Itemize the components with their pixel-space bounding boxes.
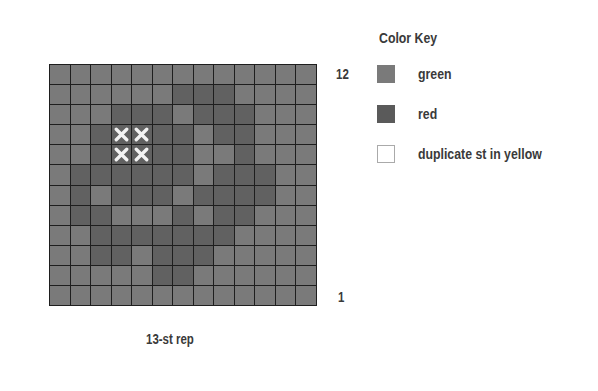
chart-cell — [112, 165, 132, 184]
chart-cell — [112, 226, 132, 245]
chart-cell — [296, 186, 316, 205]
chart-cell — [173, 65, 193, 84]
chart-cell — [194, 226, 214, 245]
chart-cell — [112, 186, 132, 205]
chart-cell — [194, 145, 214, 164]
chart-cell — [255, 105, 275, 124]
chart-cell — [276, 105, 296, 124]
chart-cell — [132, 145, 152, 164]
color-key-title: Color Key — [379, 29, 437, 46]
chart-cell — [255, 165, 275, 184]
chart-cell — [276, 85, 296, 104]
chart-cell — [153, 286, 173, 305]
green-swatch-icon — [377, 65, 395, 83]
chart-cell — [173, 145, 193, 164]
chart-cell — [194, 286, 214, 305]
chart-cell — [214, 246, 234, 265]
chart-cell — [173, 286, 193, 305]
chart-cell — [214, 165, 234, 184]
chart-cell — [173, 85, 193, 104]
chart-cell — [153, 246, 173, 265]
chart-cell — [132, 105, 152, 124]
chart-cell — [71, 125, 91, 144]
chart-cell — [214, 145, 234, 164]
chart-cell — [153, 165, 173, 184]
chart-cell — [255, 206, 275, 225]
duplicate-stitch-x-icon — [112, 145, 132, 164]
chart-cell — [214, 125, 234, 144]
chart-cell — [91, 246, 111, 265]
key-label-green: green — [418, 65, 452, 82]
chart-cell — [50, 125, 70, 144]
duplicate-stitch-swatch-icon — [377, 145, 395, 163]
chart-cell — [235, 266, 255, 285]
chart-cell — [255, 266, 275, 285]
chart-cell — [173, 246, 193, 265]
chart-cell — [235, 105, 255, 124]
chart-cell — [71, 266, 91, 285]
chart-cell — [71, 85, 91, 104]
row-label-top: 12 — [336, 66, 349, 82]
chart-cell — [132, 186, 152, 205]
chart-cell — [153, 266, 173, 285]
chart-cell — [296, 105, 316, 124]
chart-cell — [71, 186, 91, 205]
chart-cell — [50, 186, 70, 205]
chart-cell — [276, 266, 296, 285]
chart-cell — [194, 186, 214, 205]
chart-cell — [50, 226, 70, 245]
chart-cell — [276, 226, 296, 245]
chart-cell — [50, 65, 70, 84]
chart-cell — [194, 246, 214, 265]
chart-cell — [91, 165, 111, 184]
chart-cell — [296, 246, 316, 265]
chart-cell — [214, 65, 234, 84]
chart-cell — [91, 206, 111, 225]
chart-cell — [132, 266, 152, 285]
chart-cell — [71, 145, 91, 164]
chart-cell — [296, 125, 316, 144]
chart-cell — [112, 246, 132, 265]
chart-cell — [276, 125, 296, 144]
chart-cell — [71, 165, 91, 184]
chart-cell — [296, 145, 316, 164]
chart-cell — [50, 105, 70, 124]
chart-cell — [296, 226, 316, 245]
chart-cell — [235, 226, 255, 245]
colorwork-chart-grid — [49, 64, 317, 306]
chart-cell — [132, 165, 152, 184]
chart-cell — [214, 286, 234, 305]
chart-cell — [235, 246, 255, 265]
chart-cell — [235, 145, 255, 164]
chart-cell — [91, 226, 111, 245]
chart-cell — [71, 226, 91, 245]
chart-cell — [153, 65, 173, 84]
chart-cell — [112, 85, 132, 104]
chart-cell — [112, 105, 132, 124]
chart-cell — [173, 206, 193, 225]
chart-cell — [194, 105, 214, 124]
chart-cell — [235, 165, 255, 184]
chart-cell — [91, 286, 111, 305]
chart-cell — [214, 85, 234, 104]
chart-cell — [194, 266, 214, 285]
chart-cell — [153, 105, 173, 124]
duplicate-stitch-x-icon — [132, 125, 152, 144]
chart-cell — [255, 186, 275, 205]
chart-cell — [71, 105, 91, 124]
chart-cell — [276, 186, 296, 205]
chart-cell — [276, 206, 296, 225]
chart-cell — [214, 206, 234, 225]
chart-cell — [91, 85, 111, 104]
chart-cell — [255, 85, 275, 104]
chart-cell — [132, 246, 152, 265]
chart-cell — [194, 65, 214, 84]
chart-cell — [91, 65, 111, 84]
chart-cell — [132, 65, 152, 84]
chart-cell — [50, 266, 70, 285]
chart-cell — [255, 226, 275, 245]
chart-cell — [173, 105, 193, 124]
chart-cell — [276, 145, 296, 164]
chart-cell — [276, 165, 296, 184]
chart-cell — [153, 145, 173, 164]
